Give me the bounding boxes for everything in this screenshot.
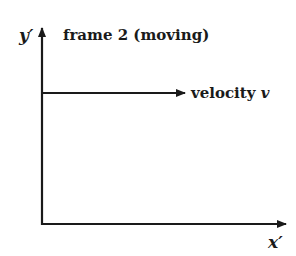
y-axis-label: y′	[19, 25, 33, 45]
reference-frame-diagram: y′ frame 2 (moving) velocity v x′	[0, 0, 296, 256]
frame-title: frame 2 (moving)	[63, 26, 209, 44]
velocity-text: velocity	[191, 84, 255, 102]
velocity-symbol: v	[261, 84, 270, 102]
x-axis-label: x′	[268, 232, 283, 252]
velocity-label: velocity v	[191, 84, 269, 102]
